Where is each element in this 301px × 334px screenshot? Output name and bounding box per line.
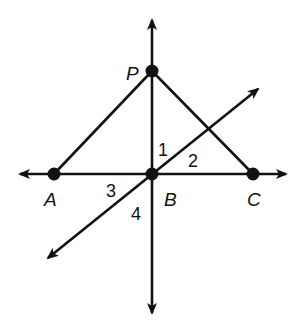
point-p [146, 65, 159, 78]
geometry-diagram: PABC1234 [0, 0, 301, 334]
points-layer [48, 65, 260, 181]
angle-label-3: 3 [106, 181, 116, 201]
point-label-c: C [247, 189, 261, 210]
point-c [247, 168, 260, 181]
point-label-b: B [164, 189, 177, 210]
point-a [48, 168, 61, 181]
point-label-p: P [126, 63, 139, 84]
angle-label-2: 2 [188, 151, 198, 171]
angle-label-1: 1 [158, 140, 168, 160]
segment-PA [54, 71, 152, 174]
point-label-a: A [43, 189, 57, 210]
segments-layer [54, 71, 253, 174]
point-b [146, 168, 159, 181]
angle-label-4: 4 [131, 204, 141, 224]
